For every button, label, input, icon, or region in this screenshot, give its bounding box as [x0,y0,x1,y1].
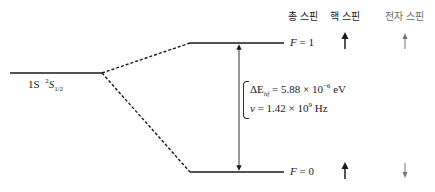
header-total-spin: 총 스핀 [288,8,318,23]
upper-connector [102,43,190,73]
energy-value: = 5.88 × 10 [269,83,323,95]
brace [243,81,249,119]
frequency-value: = 1.42 × 10 [255,102,309,114]
nuclear-spin-up-arrow-upper [342,32,349,49]
electron-spin-down-arrow-lower [403,163,408,178]
lower-level-label: F = 0 [290,165,314,177]
header-nuclear-spin: 핵 스핀 [330,8,360,23]
nuclear-spin-up-arrow-lower [342,162,349,179]
principal-label: 1S [28,78,40,90]
frequency-unit: Hz [312,102,328,114]
frequency-label: ν = 1.42 × 109 Hz [250,101,328,114]
hyperfine-diagram [0,0,435,192]
upper-level-label: F = 1 [290,36,314,48]
header-electron-spin: 전자 스핀 [385,8,424,23]
lower-connector [102,73,190,172]
energy-splitting-label: ΔEhf = 5.88 × 10−6 eV [250,82,346,98]
f-symbol: F [290,36,297,48]
electron-spin-up-arrow-upper [403,33,408,49]
f-value: = 0 [297,165,314,177]
f-symbol: F [290,165,297,177]
f-value: = 1 [297,36,314,48]
energy-unit: eV [330,83,346,95]
term-j: 1/2 [54,85,63,93]
ground-state-label: 1S 2S1/2 [28,77,63,93]
delta-e-symbol: ΔE [250,83,264,95]
